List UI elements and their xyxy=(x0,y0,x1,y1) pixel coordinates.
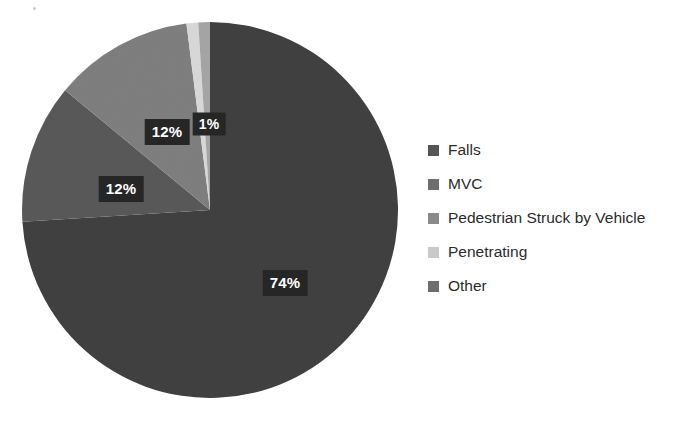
data-label-falls: 74% xyxy=(263,270,308,296)
legend-item-falls[interactable]: Falls xyxy=(428,133,673,167)
legend-swatch-icon-penetrating xyxy=(428,247,439,258)
pie-graphic xyxy=(0,0,420,429)
legend-item-pedestrian[interactable]: Pedestrian Struck by Vehicle xyxy=(428,201,673,235)
legend-swatch-icon-mvc xyxy=(428,179,439,190)
legend-label-falls: Falls xyxy=(448,141,481,158)
legend-label-penetrating: Penetrating xyxy=(448,243,527,260)
legend-item-mvc[interactable]: MVC xyxy=(428,167,673,201)
pie-plot-area: 74% 12% 12% 1% xyxy=(0,0,420,429)
legend-swatch-icon-falls xyxy=(428,145,439,156)
legend-label-pedestrian: Pedestrian Struck by Vehicle xyxy=(448,209,645,226)
legend-swatch-icon-pedestrian xyxy=(428,213,439,224)
legend-label-mvc: MVC xyxy=(448,175,482,192)
data-label-mvc: 12% xyxy=(99,176,144,202)
legend-swatch-icon-other xyxy=(428,281,439,292)
data-label-pedestrian: 12% xyxy=(145,119,190,145)
pie-chart: 74% 12% 12% 1% Falls MVC Pedestrian Stru… xyxy=(0,0,677,429)
legend-item-penetrating[interactable]: Penetrating xyxy=(428,235,673,269)
legend-label-other: Other xyxy=(448,277,487,294)
legend-item-other[interactable]: Other xyxy=(428,269,673,303)
chart-legend: Falls MVC Pedestrian Struck by Vehicle P… xyxy=(428,133,673,303)
data-label-penetrating: 1% xyxy=(193,113,226,136)
